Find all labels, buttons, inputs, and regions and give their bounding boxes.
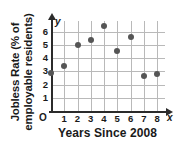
x-axis-symbol: x xyxy=(167,112,173,123)
x-tick-label: 2 xyxy=(72,113,84,124)
data-point xyxy=(114,48,120,54)
gridline-vertical xyxy=(144,21,145,111)
y-tick-label: 6 xyxy=(37,26,48,37)
data-point xyxy=(48,70,54,76)
plot-area xyxy=(51,21,165,111)
y-axis-title-line2: employable residents) xyxy=(22,13,35,130)
x-tick-label: 8 xyxy=(151,113,163,124)
y-tick-label: 5 xyxy=(37,39,48,50)
y-tick-label: 1 xyxy=(37,92,48,103)
data-point xyxy=(154,71,160,77)
x-axis-title: Years Since 2008 xyxy=(36,126,179,140)
y-tick-label: 4 xyxy=(37,52,48,63)
gridline-vertical xyxy=(117,21,118,111)
data-point xyxy=(128,34,134,40)
y-axis-title-line1: Jobless Rate (% of xyxy=(9,23,22,122)
gridline-vertical xyxy=(91,21,92,111)
x-tick-label: 4 xyxy=(98,113,110,124)
data-point xyxy=(75,42,81,48)
scatter-plot-figure: Jobless Rate (% of employable residents)… xyxy=(0,0,179,148)
data-point xyxy=(141,73,147,79)
x-tick-label: 1 xyxy=(58,113,70,124)
gridline-horizontal xyxy=(51,45,165,46)
gridline-horizontal xyxy=(51,71,165,72)
data-point xyxy=(61,63,67,69)
y-axis-symbol: y xyxy=(55,16,61,27)
x-tick-label: 7 xyxy=(138,113,150,124)
x-tick-label: 5 xyxy=(111,113,123,124)
gridline-horizontal xyxy=(51,32,165,33)
gridline-vertical xyxy=(157,21,158,111)
gridline-vertical xyxy=(104,21,105,111)
x-tick-label: 6 xyxy=(125,113,137,124)
origin-label: O xyxy=(39,112,47,123)
y-tick-label: 3 xyxy=(37,65,48,76)
gridline-horizontal xyxy=(51,85,165,86)
x-tick-label: 3 xyxy=(85,113,97,124)
data-point xyxy=(88,37,94,43)
gridline-vertical xyxy=(78,21,79,111)
y-tick-label: 2 xyxy=(37,79,48,90)
y-axis-line xyxy=(51,19,53,113)
data-point xyxy=(101,23,107,29)
gridline-horizontal xyxy=(51,58,165,59)
gridline-horizontal xyxy=(51,98,165,99)
